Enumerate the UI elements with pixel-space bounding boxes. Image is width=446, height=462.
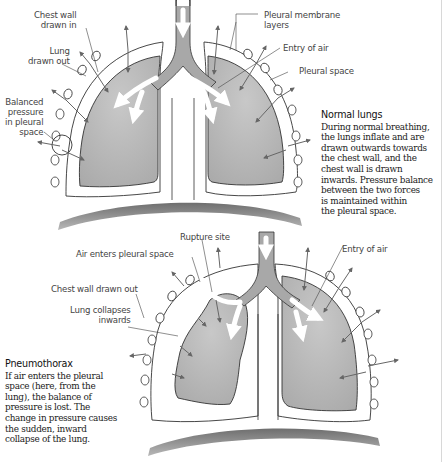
page-border	[441, 0, 442, 462]
pneumothorax-diagram: Chest wall drawn in Lung drawn out Balan…	[0, 0, 446, 462]
label-pleural-space: Pleural space	[299, 66, 354, 76]
normal-lungs-caption: Normal lungs During normal breathing, th…	[321, 110, 441, 217]
left-lung	[79, 56, 160, 187]
label-entry-of-air: Entry of air	[283, 43, 328, 53]
label-rupture-site: Rupture site	[180, 232, 230, 242]
normal-lungs-illustration	[38, 0, 310, 230]
label-lung-collapses-inwards: Lung collapses inwards	[70, 305, 131, 325]
diaphragm	[58, 203, 302, 230]
right-lung	[208, 56, 284, 185]
label-chest-wall-drawn-in: Chest wall drawn in	[34, 10, 76, 30]
pneumothorax-caption: Pneumothorax If air enters the pleural s…	[5, 359, 135, 445]
pneumothorax-title: Pneumothorax	[5, 359, 135, 370]
pneumothorax-illustration	[128, 232, 398, 456]
label-balanced-pressure: Balanced pressure in pleural space	[5, 97, 43, 137]
label-entry-of-air-2: Entry of air	[342, 244, 387, 254]
diaphragm-2	[148, 429, 380, 456]
normal-lungs-body: During normal breathing, the lungs infla…	[321, 122, 441, 217]
pneumothorax-body: If air enters the pleural space (here, f…	[5, 371, 135, 445]
label-chest-wall-drawn-out: Chest wall drawn out	[51, 284, 138, 294]
label-air-enters-pleural-space: Air enters pleural space	[76, 249, 174, 259]
normal-lungs-title: Normal lungs	[321, 110, 441, 121]
label-pleural-membrane-layers: Pleural membrane layers	[264, 10, 340, 30]
label-lung-drawn-out: Lung drawn out	[28, 46, 70, 66]
